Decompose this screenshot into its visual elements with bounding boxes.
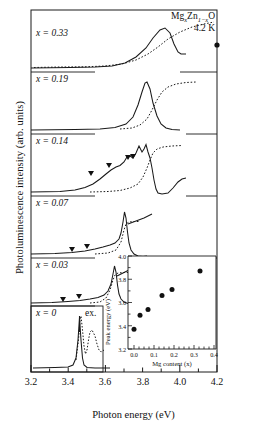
x-tick-3.6: 3.6: [99, 376, 112, 387]
pl-curve-x0: [33, 318, 110, 368]
inset-y-tick-3.4: 3.4: [110, 323, 126, 330]
absorption-tail-x007: [128, 214, 152, 224]
inset-y-tick-3.6: 3.6: [110, 299, 126, 306]
trace-label-x033: x = 0.33: [36, 28, 68, 38]
inset-y-tick-3.8: 3.8: [110, 276, 126, 283]
panel-baselines: [31, 72, 95, 306]
trace-label-x014: x = 0.14: [36, 136, 68, 146]
inset-point: [132, 327, 137, 332]
trace-label-x019: x = 0.19: [36, 74, 68, 84]
inset-x-tick-0.0: 0.0: [130, 351, 138, 358]
absorption-curve-x007: [95, 222, 140, 255]
right-axis-baselines: [180, 72, 217, 258]
inset-x-tick-0.3: 0.3: [190, 351, 198, 358]
trace-label-x007: x = 0.07: [36, 198, 68, 208]
temperature-label: 4.2 K: [171, 23, 215, 34]
inset-background: [128, 256, 216, 349]
right-edge-data-point: [214, 42, 219, 47]
inset-x-tick-0.4: 0.4: [210, 351, 218, 358]
pl-curve-x007: [31, 212, 147, 257]
inset-x-tick-0.1: 0.1: [150, 351, 158, 358]
x-tick-3.4: 3.4: [62, 376, 75, 387]
x-tick-3.8: 3.8: [137, 376, 150, 387]
inset-y-axis-title: Peak energy (eV): [104, 299, 111, 345]
inset-y-tick-4.0: 4.0: [110, 253, 126, 260]
absorption-curve-x019: [120, 82, 196, 129]
panel-x007: [31, 212, 152, 257]
material-zn: Zn: [187, 11, 198, 21]
inset-x-axis-title: Mg content (x): [128, 360, 216, 367]
inset-y-tick-3.2: 3.2: [110, 346, 126, 353]
y-axis-title-left: Photoluminescence intensity (arb. units): [14, 48, 25, 328]
inset-x-tick-0.2: 0.2: [170, 351, 178, 358]
inset-point: [170, 287, 175, 292]
sample-header: MgxZn1−xO 4.2 K: [171, 11, 215, 34]
pl-curve-x019: [31, 82, 180, 130]
trace-label-x0: x = 0: [36, 308, 56, 318]
inset-point: [198, 269, 203, 274]
material-formula: MgxZn1−xO: [171, 11, 215, 23]
inset-point: [146, 307, 151, 312]
figure-container: MgxZn1−xO 4.2 K x = 0.33 x = 0.19 x = 0.…: [0, 0, 267, 429]
marker-triangles-x014: [88, 154, 136, 176]
x-axis-title: Photon energy (eV): [0, 409, 267, 420]
material-sub-1x: 1−x: [198, 16, 208, 23]
trace-label-x003: x = 0.03: [36, 260, 68, 270]
material-mg: Mg: [171, 11, 184, 21]
pl-curve-x014: [31, 145, 186, 195]
x-tick-4.0: 4.0: [174, 376, 187, 387]
inset-point: [160, 293, 165, 298]
x-tick-3.2: 3.2: [25, 376, 38, 387]
inset-point: [138, 313, 143, 318]
inset-chart: [128, 256, 216, 349]
panel-x019: [31, 82, 196, 130]
material-o: O: [208, 11, 215, 21]
exciton-label: ex.: [85, 308, 96, 318]
panel-x014: [31, 145, 186, 195]
x-tick-4.2: 4.2: [211, 376, 224, 387]
